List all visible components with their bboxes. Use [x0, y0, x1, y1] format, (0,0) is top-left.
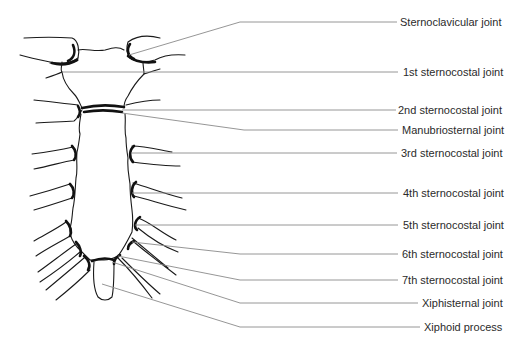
label-xiphoid-process: Xiphoid process: [424, 321, 502, 333]
label-sternoclavicular-joint: Sternoclavicular joint: [400, 16, 502, 28]
label-7th-sternocostal-joint: 7th sternocostal joint: [402, 274, 503, 286]
leader-lines: [62, 22, 420, 327]
manubrium: [34, 62, 160, 123]
manubriosternal-joint: [78, 106, 124, 117]
label-4th-sternocostal-joint: 4th sternocostal joint: [403, 187, 504, 199]
label-xiphisternal-joint: Xiphisternal joint: [422, 297, 503, 309]
sternal-body: [70, 114, 133, 260]
label-1st-sternocostal-joint: 1st sternocostal joint: [403, 66, 503, 78]
clavicles: [20, 36, 185, 64]
label-6th-sternocostal-joint: 6th sternocostal joint: [402, 248, 503, 260]
label-5th-sternocostal-joint: 5th sternocostal joint: [403, 219, 504, 231]
label-3rd-sternocostal-joint: 3rd sternocostal joint: [401, 147, 503, 159]
label-manubriosternal-joint: Manubriosternal joint: [402, 124, 504, 136]
xiphoid-process: [92, 259, 114, 300]
label-2nd-sternocostal-joint: 2nd sternocostal joint: [398, 104, 502, 116]
left-ribs: [30, 146, 90, 300]
right-ribs: [114, 146, 186, 298]
